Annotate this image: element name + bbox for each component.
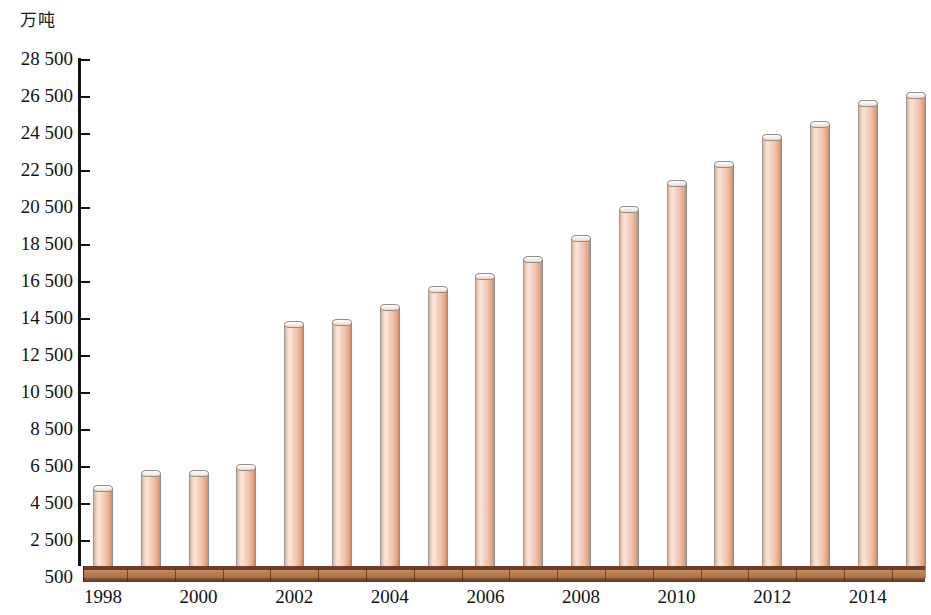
y-axis-tick-label: 28 500: [21, 48, 73, 70]
y-axis-tick-mark: [81, 244, 90, 246]
floor-seam: [127, 569, 128, 581]
x-axis-tick-label: 2002: [275, 586, 313, 608]
bar-top-cap: [475, 273, 495, 280]
bar: [667, 184, 687, 578]
x-axis-tick-label: 2004: [371, 586, 409, 608]
y-axis-tick-label: 2 500: [30, 529, 73, 551]
bar-top-cap: [667, 180, 687, 187]
bar: [236, 468, 256, 578]
y-axis-tick-mark: [81, 355, 90, 357]
bar-top-cap: [714, 161, 734, 168]
x-axis-tick-label: 2008: [562, 586, 600, 608]
floor-seam: [318, 569, 319, 581]
bar-top-cap: [141, 470, 161, 477]
y-axis-tick-mark: [81, 466, 90, 468]
floor-seam: [366, 569, 367, 581]
bar-top-cap: [93, 485, 113, 492]
bar: [428, 290, 448, 578]
y-axis-tick-label: 6 500: [30, 455, 73, 477]
bar-top-cap: [619, 206, 639, 213]
bar: [189, 474, 209, 578]
y-axis-tick-mark: [81, 429, 90, 431]
y-axis-tick-mark: [81, 392, 90, 394]
bar: [762, 138, 782, 578]
y-axis-tick-label: 500: [45, 566, 74, 588]
floor-seam: [844, 569, 845, 581]
y-axis-tick-label: 16 500: [21, 270, 73, 292]
bar: [906, 96, 926, 578]
bar: [858, 104, 878, 578]
floor-seam: [892, 569, 893, 581]
floor-seam: [175, 569, 176, 581]
floor-seam: [653, 569, 654, 581]
bar-top-cap: [332, 319, 352, 326]
y-axis-tick-label: 26 500: [21, 85, 73, 107]
bar-top-cap: [284, 321, 304, 328]
floor-seam: [223, 569, 224, 581]
bar-chart: 万吨 28 50026 50024 50022 50020 50018 5001…: [0, 0, 931, 615]
y-axis-tick-label: 22 500: [21, 159, 73, 181]
y-axis-tick-label: 18 500: [21, 233, 73, 255]
floor-seam: [414, 569, 415, 581]
y-axis-tick-mark: [81, 59, 90, 61]
y-axis-tick-mark: [81, 318, 90, 320]
bar-top-cap: [428, 286, 448, 293]
x-axis-tick-label: 2014: [849, 586, 887, 608]
bar-top-cap: [523, 256, 543, 263]
floor-seam: [557, 569, 558, 581]
bar: [810, 125, 830, 578]
bar: [475, 277, 495, 578]
bar: [571, 239, 591, 578]
x-axis-tick-label: 2000: [180, 586, 218, 608]
y-axis-unit-label: 万吨: [20, 6, 56, 31]
bar: [332, 323, 352, 578]
bar-top-cap: [858, 100, 878, 107]
bar: [141, 474, 161, 578]
x-axis-tick-label: 1998: [84, 586, 122, 608]
bar: [93, 489, 113, 578]
floor-left-cap: [78, 566, 84, 582]
bar: [284, 325, 304, 578]
x-axis-tick-label: 2012: [753, 586, 791, 608]
bar-top-cap: [762, 134, 782, 141]
floor-seam: [462, 569, 463, 581]
floor-seam: [509, 569, 510, 581]
y-axis-tick-label: 12 500: [21, 344, 73, 366]
y-axis-tick-mark: [81, 96, 90, 98]
bar-top-cap: [236, 464, 256, 471]
y-axis-tick-label: 8 500: [30, 418, 73, 440]
bar: [619, 210, 639, 578]
bar: [380, 308, 400, 578]
y-axis-tick-label: 20 500: [21, 196, 73, 218]
floor-seam: [748, 569, 749, 581]
y-axis-tick-label: 10 500: [21, 381, 73, 403]
floor-seam: [605, 569, 606, 581]
x-axis-tick-label: 2006: [466, 586, 504, 608]
bar-top-cap: [810, 121, 830, 128]
bar-top-cap: [380, 304, 400, 311]
y-axis-tick-label: 14 500: [21, 307, 73, 329]
y-axis-tick-mark: [81, 133, 90, 135]
y-axis-tick-mark: [81, 170, 90, 172]
bar: [714, 165, 734, 578]
bar-top-cap: [906, 92, 926, 99]
x-axis-tick-label: 2010: [658, 586, 696, 608]
bar: [523, 260, 543, 578]
y-axis-tick-mark: [81, 207, 90, 209]
y-axis-tick-mark: [81, 281, 90, 283]
y-axis-tick-label: 4 500: [30, 492, 73, 514]
y-axis-tick-label: 24 500: [21, 122, 73, 144]
bar-top-cap: [189, 470, 209, 477]
floor-front-edge: [78, 578, 925, 582]
bar-top-cap: [571, 235, 591, 242]
y-axis-tick-mark: [81, 540, 90, 542]
y-axis-tick-mark: [81, 503, 90, 505]
floor-seam: [796, 569, 797, 581]
floor-seam: [270, 569, 271, 581]
floor-seam: [701, 569, 702, 581]
